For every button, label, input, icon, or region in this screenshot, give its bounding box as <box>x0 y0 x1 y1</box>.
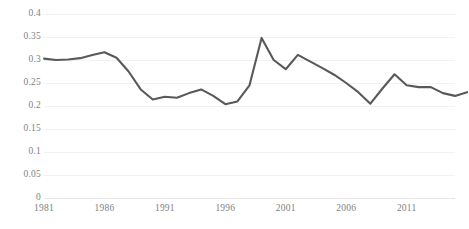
y-axis: 00.050.10.150.20.250.30.350.4 <box>0 0 41 229</box>
y-tick-label: 0.1 <box>3 147 41 156</box>
x-tick-label: 2011 <box>397 203 416 213</box>
y-tick-label: 0.35 <box>3 32 41 41</box>
series-line-1 <box>44 38 467 104</box>
chart-plot-area <box>0 0 469 229</box>
x-tick-label: 2001 <box>276 203 296 213</box>
line-chart: 00.050.10.150.20.250.30.350.4 1981198619… <box>0 0 469 229</box>
x-tick-label: 1996 <box>215 203 235 213</box>
y-tick-label: 0 <box>3 193 41 202</box>
y-tick-label: 0.2 <box>3 101 41 110</box>
y-tick-label: 0.4 <box>3 9 41 18</box>
x-tick-label: 1991 <box>155 203 175 213</box>
y-tick-label: 0.3 <box>3 55 41 64</box>
y-tick-label: 0.15 <box>3 124 41 133</box>
gridlines <box>44 14 455 198</box>
x-tick-label: 1986 <box>95 203 115 213</box>
y-tick-label: 0.25 <box>3 78 41 87</box>
x-tick-label: 1981 <box>34 203 54 213</box>
x-tick-label: 2006 <box>336 203 356 213</box>
y-tick-label: 0.05 <box>3 170 41 179</box>
